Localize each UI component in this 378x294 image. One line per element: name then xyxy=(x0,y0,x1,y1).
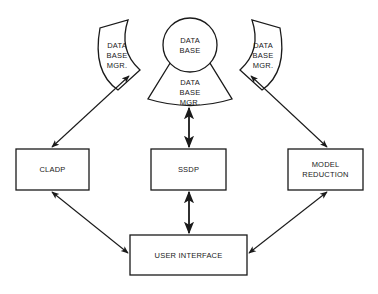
cladp-label: CLADP xyxy=(39,165,65,174)
edge-dbmgr-left-cladp xyxy=(52,76,129,147)
architecture-diagram: DATA BASE MGR. DATA BASE MGR. DATA BASE … xyxy=(0,0,378,294)
db-manager-right-label-1: DATA xyxy=(253,41,273,50)
db-manager-right-label-3: MGR. xyxy=(253,61,273,70)
user-interface-label: USER INTERFACE xyxy=(155,251,223,260)
database-label-1: DATA xyxy=(180,36,200,45)
model-reduction-label-1: MODEL xyxy=(312,160,340,169)
cladp-node: CLADP xyxy=(16,149,89,190)
db-manager-left: DATA BASE MGR. xyxy=(98,20,140,90)
ssdp-label: SSDP xyxy=(178,165,199,174)
model-reduction-node: MODEL REDUCTION xyxy=(288,149,363,190)
db-manager-left-label-1: DATA xyxy=(107,41,127,50)
ssdp-node: SSDP xyxy=(151,149,226,190)
user-interface-node: USER INTERFACE xyxy=(130,235,247,275)
edge-model-reduction-user-interface xyxy=(249,192,327,253)
model-reduction-label-2: REDUCTION xyxy=(302,170,348,179)
database-node: DATA BASE xyxy=(163,18,217,72)
db-manager-left-label-2: BASE xyxy=(107,51,128,60)
db-manager-right: DATA BASE MGR. xyxy=(240,20,282,90)
db-manager-bottom-label-2: BASE xyxy=(180,88,201,97)
edge-dbmgr-right-model-reduction xyxy=(251,76,327,147)
database-label-2: BASE xyxy=(180,46,201,55)
edge-cladp-user-interface xyxy=(52,192,128,253)
db-manager-bottom-label-3: MGR. xyxy=(180,98,200,107)
db-manager-right-label-2: BASE xyxy=(253,51,274,60)
db-manager-left-label-3: MGR. xyxy=(107,61,127,70)
db-manager-bottom-label-1: DATA xyxy=(180,78,200,87)
